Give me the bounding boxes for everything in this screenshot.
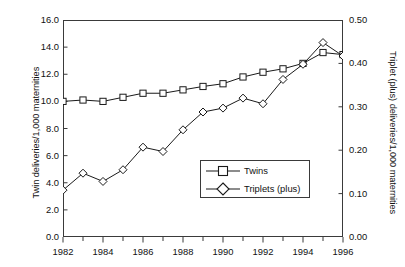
x-axis-tick-label: 1992 — [243, 247, 283, 256]
data-point-square — [220, 81, 226, 87]
y-axis-right-title: Triplet (plus) deliveries/1,000 maternit… — [387, 26, 396, 240]
data-point-square — [320, 49, 326, 55]
y-right-tick-label: 0.10 — [349, 189, 379, 198]
y-left-tick-label: 0.0 — [29, 232, 59, 241]
data-point-diamond — [219, 104, 227, 112]
y-left-tick-label: 4.0 — [29, 178, 59, 187]
data-point-square — [240, 74, 246, 80]
data-point-square — [260, 69, 266, 75]
legend-entry-twins: Twins — [201, 161, 311, 180]
y-right-tick-label: 0.40 — [349, 58, 379, 67]
y-right-tick-label: 0.50 — [349, 15, 379, 24]
legend-marker-square-icon — [205, 163, 241, 179]
data-point-square — [140, 90, 146, 96]
x-axis-tick-label: 1990 — [203, 247, 243, 256]
y-right-tick-label: 0.00 — [349, 232, 379, 241]
y-right-tick-label: 0.30 — [349, 102, 379, 111]
chart-legend: Twins Triplets (plus) — [200, 160, 310, 198]
data-point-diamond — [99, 177, 107, 185]
plot-data-layer — [63, 20, 343, 237]
data-point-square — [160, 90, 166, 96]
legend-entry-triplets: Triplets (plus) — [201, 179, 311, 198]
y-left-tick-label: 14.0 — [29, 42, 59, 51]
y-left-tick-label: 2.0 — [29, 205, 59, 214]
x-axis-tick-label: 1982 — [43, 247, 83, 256]
data-point-square — [120, 94, 126, 100]
y-left-tick-label: 8.0 — [29, 124, 59, 133]
x-axis-tick-label: 1994 — [283, 247, 323, 256]
series-twins — [63, 49, 343, 104]
data-point-square — [80, 97, 86, 103]
chart-figure: Twin deliveries/1,000 maternities Triple… — [0, 0, 405, 267]
y-left-tick-label: 10.0 — [29, 96, 59, 105]
data-point-square — [180, 87, 186, 93]
data-point-square — [280, 66, 286, 72]
x-axis-tick-label: 1986 — [123, 247, 163, 256]
y-left-tick-label: 16.0 — [29, 15, 59, 24]
data-point-square — [200, 83, 206, 89]
legend-label-twins: Twins — [244, 166, 268, 175]
legend-label-triplets: Triplets (plus) — [244, 184, 300, 193]
data-point-diamond — [239, 94, 247, 102]
x-axis-tick-label: 1996 — [323, 247, 363, 256]
y-left-tick-label: 12.0 — [29, 69, 59, 78]
x-axis-tick-label: 1984 — [83, 247, 123, 256]
data-point-square — [63, 98, 66, 104]
data-point-square — [100, 98, 106, 104]
y-left-tick-label: 6.0 — [29, 151, 59, 160]
y-right-tick-label: 0.20 — [349, 145, 379, 154]
legend-marker-diamond-icon — [205, 181, 241, 197]
x-axis-tick-label: 1988 — [163, 247, 203, 256]
